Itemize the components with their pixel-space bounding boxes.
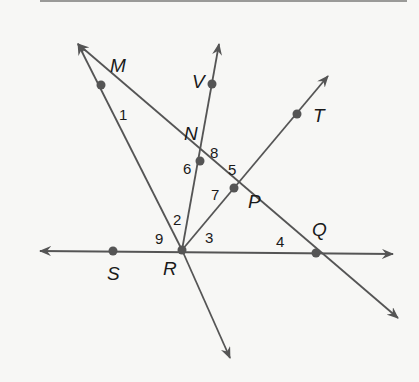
angle-label-6: 6 bbox=[183, 160, 191, 177]
angle-label-5: 5 bbox=[228, 161, 236, 178]
point-r bbox=[178, 246, 187, 255]
point-q bbox=[312, 249, 321, 258]
line-SQ bbox=[40, 251, 393, 254]
line-MQ bbox=[78, 44, 398, 318]
angle-label-3: 3 bbox=[205, 229, 213, 246]
angle-label-9: 9 bbox=[155, 230, 163, 247]
angle-label-4: 4 bbox=[276, 233, 284, 250]
labels-layer: MVNPTRSQ bbox=[107, 55, 327, 284]
angle-label-1: 1 bbox=[119, 106, 127, 123]
angle-labels-layer: 123456789 bbox=[119, 106, 284, 250]
point-s bbox=[109, 247, 118, 256]
ray-RM bbox=[78, 44, 182, 250]
point-m bbox=[97, 81, 106, 90]
point-label-n: N bbox=[184, 123, 198, 144]
geometry-diagram: MVNPTRSQ 123456789 bbox=[0, 0, 419, 382]
ray-R-down bbox=[182, 250, 230, 358]
point-label-m: M bbox=[110, 55, 126, 76]
point-label-t: T bbox=[313, 105, 326, 126]
point-v bbox=[208, 80, 217, 89]
point-label-r: R bbox=[163, 258, 177, 279]
point-t bbox=[293, 110, 302, 119]
angle-label-2: 2 bbox=[173, 211, 181, 228]
point-label-s: S bbox=[107, 263, 120, 284]
point-p bbox=[230, 184, 239, 193]
angle-label-7: 7 bbox=[211, 186, 219, 203]
point-n bbox=[196, 157, 205, 166]
angle-label-8: 8 bbox=[210, 144, 218, 161]
point-label-q: Q bbox=[312, 219, 327, 240]
diagram-svg: MVNPTRSQ 123456789 bbox=[0, 0, 419, 382]
point-label-v: V bbox=[192, 71, 207, 92]
point-label-p: P bbox=[248, 191, 261, 212]
